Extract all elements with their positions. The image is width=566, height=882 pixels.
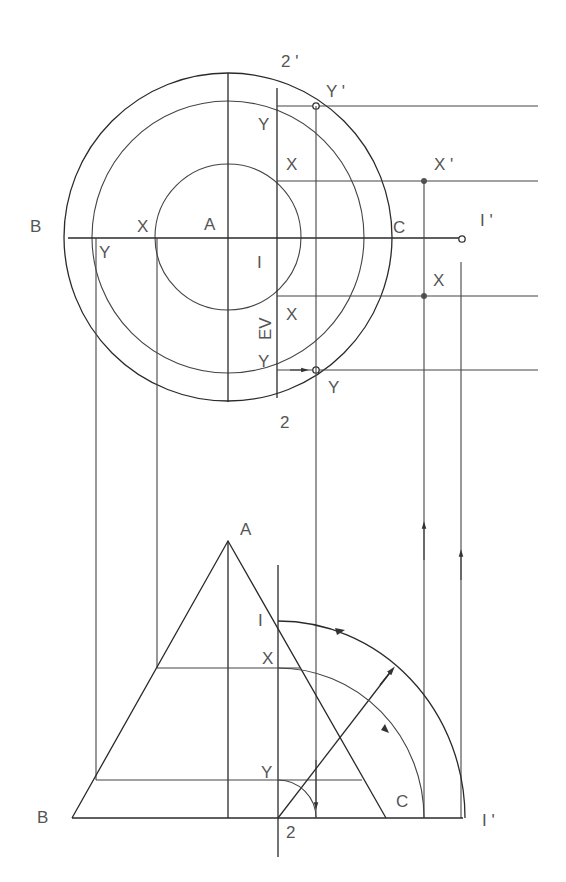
label-one-prime-front: I ' — [482, 811, 495, 830]
arc-one — [278, 621, 465, 818]
label-b-front: B — [37, 808, 48, 827]
front-view: A I X Y B C 2 I ' — [37, 520, 495, 857]
label-c-top: C — [393, 218, 405, 237]
top-view: B X A Y I C I ' 2 ' Y ' Y X X ' X X EV Y… — [30, 52, 538, 432]
label-one-front: I — [258, 611, 263, 630]
label-two-top: 2 — [280, 413, 289, 432]
label-x-prime: X ' — [434, 155, 453, 174]
label-two-front: 2 — [286, 823, 295, 842]
label-y-front: Y — [261, 763, 272, 782]
label-one-top: I — [257, 253, 262, 272]
point-one-prime — [459, 236, 465, 242]
drawing-canvas: B X A Y I C I ' 2 ' Y ' Y X X ' X X EV Y… — [0, 0, 566, 882]
label-x-upper: X — [286, 155, 297, 174]
label-a-top: A — [204, 215, 216, 234]
label-y-left: Y — [99, 243, 110, 262]
label-x-lower: X — [286, 305, 297, 324]
label-b-top: B — [30, 217, 41, 236]
label-x-left: X — [137, 217, 148, 236]
label-two-prime: 2 ' — [281, 52, 298, 71]
label-c-front: C — [396, 792, 408, 811]
cone-outline — [72, 541, 386, 818]
label-ev: EV — [256, 317, 275, 340]
label-x-right: X — [433, 271, 444, 290]
label-one-prime-top: I ' — [480, 211, 493, 230]
diagonal-45 — [278, 670, 392, 818]
label-x-front: X — [262, 649, 273, 668]
label-y-prime: Y ' — [326, 82, 345, 101]
label-y-right: Y — [328, 378, 339, 397]
label-y-lower: Y — [258, 352, 269, 371]
label-a-front: A — [240, 520, 252, 539]
label-y-upper: Y — [258, 115, 269, 134]
arc-y — [278, 780, 316, 818]
